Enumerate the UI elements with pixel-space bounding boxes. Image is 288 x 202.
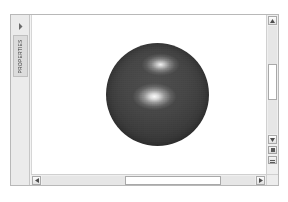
viewer-window: PROPERTIES — [10, 14, 279, 186]
square-glyph — [271, 148, 275, 152]
collapsed-sidebar-panel: PROPERTIES — [11, 15, 30, 185]
horizontal-scrollbar-track[interactable] — [42, 176, 255, 185]
chevron-right-icon[interactable] — [15, 21, 26, 31]
vertical-scrollbar[interactable] — [266, 15, 278, 174]
render-scene — [32, 15, 266, 174]
arrow-right-icon[interactable] — [256, 176, 265, 185]
scrollbar-corner — [266, 174, 278, 185]
canvas-viewport[interactable] — [31, 15, 266, 174]
lines-glyph — [270, 160, 275, 161]
horizontal-scrollbar[interactable] — [31, 174, 266, 185]
app-root: PROPERTIES — [0, 0, 288, 202]
vertical-scrollbar-track[interactable] — [268, 26, 277, 134]
arrow-up-icon[interactable] — [268, 16, 277, 25]
lines-icon[interactable] — [268, 156, 277, 164]
horizontal-scrollbar-thumb[interactable] — [125, 176, 221, 185]
sidebar-panel-tab[interactable]: PROPERTIES — [13, 35, 28, 77]
square-icon[interactable] — [268, 146, 277, 154]
sidebar-panel-tab-label: PROPERTIES — [18, 39, 23, 73]
arrow-down-icon[interactable] — [268, 135, 277, 144]
sphere-object[interactable] — [106, 43, 209, 146]
arrow-left-icon[interactable] — [32, 176, 41, 185]
viewport-tool-buttons — [268, 146, 277, 166]
sphere-grain-overlay — [106, 43, 209, 146]
vertical-scrollbar-thumb[interactable] — [268, 64, 277, 100]
